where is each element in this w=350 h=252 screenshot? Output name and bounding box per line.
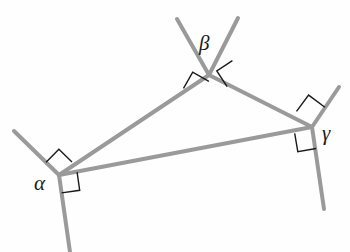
ray-alpha-upper-left — [14, 131, 59, 175]
right-angle-mark-gamma-upper — [297, 95, 325, 111]
right-angle-mark-group — [46, 61, 325, 193]
vertex-label-beta: β — [198, 31, 210, 55]
ray-group — [14, 18, 339, 252]
right-angle-mark-beta-right — [217, 61, 233, 87]
right-angle-mark-beta-left — [184, 72, 209, 88]
vertex-label-alpha: α — [34, 171, 46, 195]
geometry-canvas: α β γ — [0, 0, 350, 252]
ray-alpha-lower — [59, 175, 70, 252]
right-angle-mark-alpha-upper — [46, 149, 72, 162]
geometry-figure: α β γ — [0, 0, 350, 252]
vertex-label-gamma: γ — [322, 121, 331, 145]
triangle-group — [59, 75, 312, 175]
